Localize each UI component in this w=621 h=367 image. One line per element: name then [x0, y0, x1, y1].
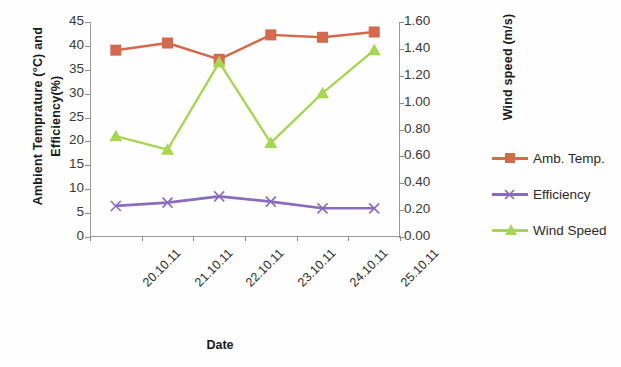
series-plot — [90, 22, 400, 237]
y-axis-right-tick-label: 0.40 — [404, 174, 444, 189]
x-axis-tick-label: 25.10.11 — [398, 246, 442, 290]
legend-item-wind-speed[interactable]: Wind Speed — [492, 212, 607, 248]
data-point-square — [110, 45, 121, 56]
triangle-marker-icon — [505, 224, 517, 235]
series-line — [116, 196, 374, 208]
x-axis-tick-label: 21.10.11 — [191, 246, 235, 290]
x-axis-title: Date — [130, 338, 310, 352]
legend-item-efficiency[interactable]: Efficiency — [492, 176, 607, 212]
y-axis-left-tick-label: 45 — [50, 13, 84, 28]
data-point-square — [369, 27, 380, 38]
y-axis-left-tick-label: 10 — [50, 180, 84, 195]
series-line — [116, 50, 374, 150]
legend-item-amb-temp[interactable]: Amb. Temp. — [492, 140, 607, 176]
y-axis-left-tick-label: 35 — [50, 61, 84, 76]
series-line — [116, 32, 374, 59]
legend-swatch-amb-temp — [492, 150, 528, 166]
square-marker-icon — [505, 153, 515, 163]
x-axis-tick-label: 20.10.11 — [140, 246, 184, 290]
data-point-square — [317, 32, 328, 43]
chart-figure: Ambient Temprature (°C) and Efficiency(%… — [0, 0, 621, 367]
x-axis-tick-label: 22.10.11 — [243, 246, 287, 290]
y-axis-left-tick-label: 30 — [50, 85, 84, 100]
y-axis-right-tick-label: 0.60 — [404, 147, 444, 162]
data-point-triangle — [109, 130, 122, 142]
chart-legend: Amb. Temp. Efficiency Wind Speed — [492, 140, 607, 248]
y-axis-left-tick-label: 0 — [50, 228, 84, 243]
legend-label-wind-speed: Wind Speed — [533, 223, 607, 238]
y-axis-right-tick-label: 1.60 — [404, 13, 444, 28]
y-axis-right-tick-label: 0.80 — [404, 121, 444, 136]
y-axis-right-tick-label: 1.20 — [404, 67, 444, 82]
legend-label-amb-temp: Amb. Temp. — [533, 151, 605, 166]
data-point-square — [265, 29, 276, 40]
legend-swatch-efficiency — [492, 186, 528, 202]
x-marker-icon — [504, 189, 515, 200]
legend-label-efficiency: Efficiency — [533, 187, 591, 202]
tick-mark — [400, 236, 401, 241]
data-point-square — [162, 38, 173, 49]
y-axis-left-tick-label: 15 — [50, 156, 84, 171]
legend-swatch-wind-speed — [492, 222, 528, 238]
data-point-triangle — [368, 44, 381, 56]
y-axis-right-tick-label: 1.00 — [404, 94, 444, 109]
x-axis-tick-label: 24.10.11 — [346, 246, 390, 290]
plot-area — [90, 22, 400, 237]
x-axis-tick-label: 23.10.11 — [295, 246, 339, 290]
y-axis-left-tick-label: 5 — [50, 204, 84, 219]
y-axis-right-tick-label: 0.20 — [404, 201, 444, 216]
y-axis-right-tick-label: 0.00 — [404, 228, 444, 243]
y-axis-left-tick-label: 20 — [50, 132, 84, 147]
y-axis-right-tick-label: 1.40 — [404, 40, 444, 55]
y-axis-left-tick-label: 40 — [50, 37, 84, 52]
y-axis-left-tick-label: 25 — [50, 109, 84, 124]
